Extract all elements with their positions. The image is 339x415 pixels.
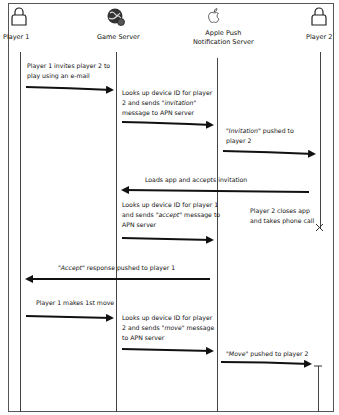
arrow-invitation-to-apns xyxy=(122,122,212,125)
msg-text: pushed to player 2 xyxy=(248,350,308,357)
msg-line: 2 and sends "invitation" xyxy=(122,98,212,108)
msg-line: Looks up device ID for player xyxy=(122,88,212,98)
msg-line: "Move" pushed to player 2 xyxy=(226,349,309,359)
msg-text: response pushed to player 1 xyxy=(85,264,175,271)
message-player2-closes: Player 2 closes app and takes phone call xyxy=(250,206,314,226)
lifeline-terminator-x xyxy=(316,224,323,231)
msg-emphasis: "move" xyxy=(162,324,185,331)
arrow-invitation-push xyxy=(223,151,314,154)
message-first-move: Player 1 makes 1st move xyxy=(36,298,114,308)
msg-emphasis: "accept" xyxy=(156,211,182,218)
msg-text: 2 and sends xyxy=(122,99,162,106)
msg-text: 2 and sends xyxy=(122,324,162,331)
msg-emphasis: "Accept" xyxy=(58,264,85,271)
msg-line: and takes phone call xyxy=(250,216,314,226)
message-move-push: "Move" pushed to player 2 xyxy=(226,349,309,359)
msg-line: player 2 xyxy=(226,136,294,146)
message-invitation-to-apns: Looks up device ID for player 2 and send… xyxy=(122,88,212,118)
msg-line: message to APN server xyxy=(122,108,212,118)
arrow-invite xyxy=(26,87,112,90)
msg-line: 2 and sends "move" message xyxy=(122,323,214,333)
arrow-accept-invitation xyxy=(123,190,309,192)
msg-line: APN server xyxy=(122,220,220,230)
msg-line: Looks up device ID for player 1 xyxy=(122,200,220,210)
arrow-move-push xyxy=(221,362,310,364)
msg-line: Looks up device ID for player xyxy=(122,313,214,323)
msg-line: play using an e-mail xyxy=(27,71,110,81)
msg-line: Player 1 makes 1st move xyxy=(36,298,114,308)
msg-emphasis: "invitation" xyxy=(162,99,197,106)
message-accept-response: "Accept" response pushed to player 1 xyxy=(58,263,175,273)
msg-emphasis: "Invitation" xyxy=(226,127,261,134)
msg-line: "Invitation" pushed to xyxy=(226,126,294,136)
msg-line: Player 2 closes app xyxy=(250,206,314,216)
msg-line: Loads app and accepts invitation xyxy=(145,175,247,185)
message-invitation-push: "Invitation" pushed to player 2 xyxy=(226,126,294,146)
msg-line: and sends "accept" message to xyxy=(122,210,220,220)
msg-emphasis: "Move" xyxy=(226,350,248,357)
message-move-to-apns: Looks up device ID for player 2 and send… xyxy=(122,313,214,343)
msg-text: pushed to xyxy=(261,127,294,134)
msg-text: message xyxy=(185,324,215,331)
msg-text: and sends xyxy=(122,211,156,218)
msg-line: to APN server xyxy=(122,333,214,343)
message-accept-invitation: Loads app and accepts invitation xyxy=(145,175,247,185)
arrow-accept-to-apns xyxy=(122,238,212,240)
msg-line: Player 1 invites player 2 to xyxy=(27,61,110,71)
msg-text: message to xyxy=(182,211,220,218)
msg-line: "Accept" response pushed to player 1 xyxy=(58,263,175,273)
message-accept-to-apns: Looks up device ID for player 1 and send… xyxy=(122,200,220,230)
message-invite: Player 1 invites player 2 to play using … xyxy=(27,61,110,81)
arrow-move-to-apns xyxy=(122,349,212,351)
arrow-first-move xyxy=(26,316,112,318)
